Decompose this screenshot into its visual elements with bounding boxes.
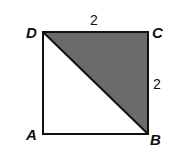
square-diagram: D C A B 2 2: [0, 0, 175, 148]
side-label-cb: 2: [153, 76, 161, 92]
vertex-label-a: A: [25, 126, 37, 143]
vertex-label-d: D: [26, 24, 37, 41]
side-label-dc: 2: [90, 12, 98, 28]
vertex-label-b: B: [150, 131, 161, 148]
vertex-label-c: C: [152, 24, 164, 41]
